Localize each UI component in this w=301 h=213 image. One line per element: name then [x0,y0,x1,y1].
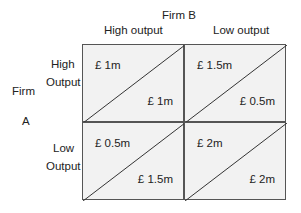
payoff-firm-b: £ 1.5m [138,173,173,185]
payoff-cell-low-low: £ 2m £ 2m [184,122,286,200]
firm-a-label-line1: Firm [12,85,35,97]
firm-a-label-line2: A [22,115,30,127]
diagonal-divider [83,123,185,201]
payoff-firm-a: £ 1m [95,59,121,71]
column-header-high-output: High output [104,24,163,36]
payoff-firm-b: £ 1m [147,95,173,107]
payoff-cell-low-high: £ 0.5m £ 1.5m [82,122,184,200]
diagonal-divider [185,123,287,201]
row-header-high-line2: Output [46,76,81,88]
diagonal-divider [185,45,287,123]
column-header-low-output: Low output [213,24,269,36]
payoff-cell-high-high: £ 1m £ 1m [82,44,184,122]
payoff-matrix: £ 1m £ 1m £ 1.5m £ 0.5m £ 0.5m £ 1.5m £ … [82,44,286,200]
firm-b-label: Firm B [162,9,196,21]
payoff-firm-b: £ 2m [249,173,275,185]
row-header-high-line1: High [51,58,75,70]
payoff-cell-high-low: £ 1.5m £ 0.5m [184,44,286,122]
diagonal-divider [83,45,185,123]
payoff-firm-a: £ 2m [197,137,223,149]
payoff-firm-a: £ 0.5m [95,137,130,149]
payoff-firm-a: £ 1.5m [197,59,232,71]
row-header-low-line2: Output [46,160,81,172]
payoff-firm-b: £ 0.5m [240,95,275,107]
row-header-low-line1: Low [53,142,74,154]
